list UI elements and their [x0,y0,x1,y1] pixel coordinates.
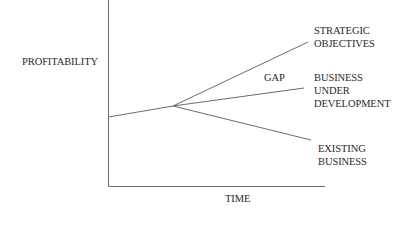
label-line: OBJECTIVES [314,37,375,50]
existing-business-line [173,106,311,140]
baseline-trend [109,106,174,117]
existing-business-label: EXISTING BUSINESS [318,142,367,168]
label-line: BUSINESS [318,155,367,168]
label-line: STRATEGIC [314,24,375,37]
business-under-development-label: BUSINESS UNDER DEVELOPMENT [314,71,390,110]
gap-label: GAP [264,71,285,84]
y-axis-label: PROFITABILITY [22,55,98,68]
label-line: BUSINESS [314,71,390,84]
strategic-objectives-label: STRATEGIC OBJECTIVES [314,24,375,50]
label-line: EXISTING [318,142,367,155]
x-axis-label: TIME [225,192,250,205]
label-line: UNDER [314,84,390,97]
label-line: DEVELOPMENT [314,97,390,110]
